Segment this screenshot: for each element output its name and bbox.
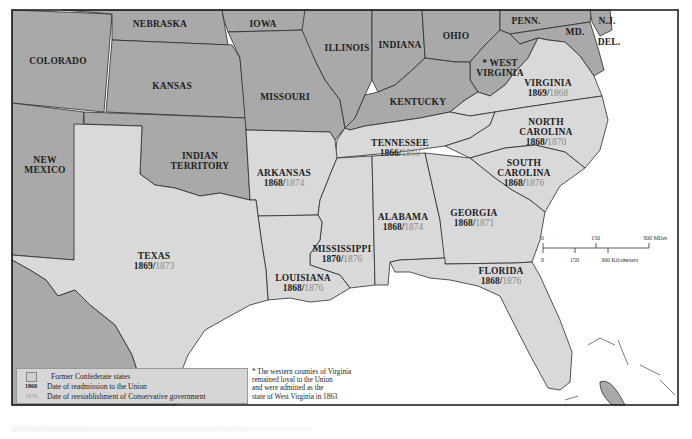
footnote-line-2: remained loyal to the Union bbox=[252, 376, 432, 384]
label-nebraska: NEBRASKA bbox=[133, 19, 187, 29]
label-indian-territory-2: TERRITORY bbox=[171, 161, 230, 171]
legend-swatch-confederate bbox=[26, 372, 37, 382]
west-virginia-footnote: * The western counties of Virginia remai… bbox=[252, 368, 432, 401]
state-kansas bbox=[106, 40, 246, 118]
label-tennessee: TENNESSEE bbox=[371, 138, 429, 148]
label-virginia: VIRGINIA bbox=[524, 78, 572, 88]
scale-miles-300: 300 Miles bbox=[643, 235, 668, 241]
years-virginia: 1869/1868 bbox=[528, 88, 569, 98]
years-georgia: 1868/1871 bbox=[454, 218, 495, 228]
label-colorado: COLORADO bbox=[29, 56, 87, 66]
label-arkansas: ARKANSAS bbox=[257, 168, 311, 178]
years-mississippi: 1870/1876 bbox=[322, 254, 363, 264]
caption-bleed bbox=[12, 426, 312, 432]
scale-km-0: 0 bbox=[541, 257, 544, 263]
label-illinois: ILLINOIS bbox=[325, 43, 370, 53]
label-missouri: MISSOURI bbox=[260, 92, 310, 102]
label-indiana: INDIANA bbox=[378, 40, 421, 50]
scale-miles-150: 150 bbox=[591, 235, 600, 241]
years-north-carolina: 1868/1870 bbox=[526, 137, 567, 147]
label-penn: PENN. bbox=[511, 16, 540, 26]
years-south-carolina: 1868/1876 bbox=[504, 178, 545, 188]
years-texas: 1869/1873 bbox=[134, 261, 175, 271]
footnote-line-4: state of West Virginia in 1863 bbox=[252, 393, 432, 401]
footnote-line-3: and were admitted as the bbox=[252, 384, 432, 392]
label-ohio: OHIO bbox=[443, 31, 470, 41]
footnote-line-1: * The western counties of Virginia bbox=[252, 368, 432, 376]
label-new-mexico-1: NEW bbox=[33, 155, 57, 165]
label-north-carolina-2: CAROLINA bbox=[519, 127, 572, 137]
scale-km-150: 150 bbox=[570, 257, 579, 263]
label-del: DEL. bbox=[598, 37, 621, 47]
label-north-carolina-1: NORTH bbox=[528, 117, 564, 127]
state-new-mexico bbox=[12, 103, 84, 260]
label-iowa: IOWA bbox=[249, 19, 276, 29]
label-texas: TEXAS bbox=[138, 251, 171, 261]
years-tennessee: 1866/1869 bbox=[380, 148, 421, 158]
label-south-carolina-1: SOUTH bbox=[507, 158, 542, 168]
scale-km-300: 300 Kilometers bbox=[601, 257, 639, 263]
label-georgia: GEORGIA bbox=[450, 208, 497, 218]
legend-label-conservative: Date of reestablishment of Conservative … bbox=[47, 391, 206, 402]
map-legend: Former Confederate states 1868 Date of r… bbox=[16, 368, 248, 404]
label-mississippi: MISSISSIPPI bbox=[313, 244, 372, 254]
label-alabama: ALABAMA bbox=[378, 212, 428, 222]
years-florida: 1868/1876 bbox=[481, 276, 522, 286]
label-md: MD. bbox=[566, 27, 585, 37]
years-arkansas: 1868/1874 bbox=[264, 178, 305, 188]
label-indian-territory-1: INDIAN bbox=[182, 151, 218, 161]
label-louisiana: LOUISIANA bbox=[275, 273, 331, 283]
years-alabama: 1868/1874 bbox=[383, 222, 424, 232]
legend-key-conservative: 1876 bbox=[25, 391, 47, 402]
label-kansas: KANSAS bbox=[152, 81, 192, 91]
legend-item-conservative: 1876 Date of reestablishment of Conserva… bbox=[17, 391, 206, 402]
label-south-carolina-2: CAROLINA bbox=[497, 168, 550, 178]
label-florida: FLORIDA bbox=[478, 266, 523, 276]
label-new-mexico-2: MEXICO bbox=[24, 165, 65, 175]
label-kentucky: KENTUCKY bbox=[390, 97, 447, 107]
scale-miles-0: 0 bbox=[541, 235, 544, 241]
label-nj: N.J. bbox=[598, 16, 615, 26]
years-louisiana: 1868/1876 bbox=[283, 283, 324, 293]
label-west-virginia-1: * WEST bbox=[482, 58, 518, 68]
label-west-virginia-2: VIRGINIA bbox=[476, 68, 524, 78]
